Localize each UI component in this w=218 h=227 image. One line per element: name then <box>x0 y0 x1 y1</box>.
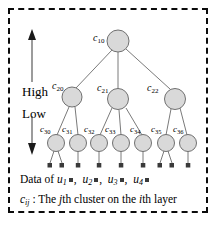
leaf-stems <box>50 151 188 163</box>
leaf-dot <box>141 163 146 168</box>
node-label-c33: c33 <box>105 125 116 134</box>
node-label-c32: c32 <box>84 125 95 134</box>
stem-c35-a <box>160 151 164 163</box>
leaf-dot <box>97 163 102 168</box>
edge-c21-c33 <box>119 110 121 135</box>
caption-data-of: Data of u1, u2, u3, u4 <box>20 173 150 186</box>
axis-label-high: High <box>22 84 48 100</box>
node-c33 <box>113 135 130 152</box>
up-arrow <box>28 29 36 82</box>
node-label-c21: c21 <box>97 83 108 93</box>
node-label-c20: c20 <box>52 81 63 91</box>
leaf-dot <box>158 163 163 168</box>
axis-label-low: Low <box>22 106 46 122</box>
figure-container: High Low c10 c20 c21 c22 c30 c31 c32 c33… <box>0 0 218 227</box>
leaf-dots <box>48 163 191 168</box>
leaf-dot <box>76 163 81 168</box>
node-c21 <box>108 89 129 110</box>
node-c10 <box>107 30 129 52</box>
node-label-c10: c10 <box>93 33 104 43</box>
caption-legend: cij : The jth cluster on the ith layer <box>20 193 177 206</box>
leaf-dot <box>119 163 124 168</box>
stem-c30-b <box>58 151 62 163</box>
node-c32 <box>91 135 108 152</box>
node-c30 <box>48 135 65 152</box>
node-c34 <box>135 135 152 152</box>
node-c22 <box>165 89 186 110</box>
leaf-dot <box>170 163 175 168</box>
user-dot <box>145 178 149 182</box>
node-label-c30: c30 <box>40 125 51 134</box>
node-c31 <box>70 135 87 152</box>
edge-c20-c31 <box>75 107 78 135</box>
user-dot <box>120 178 124 182</box>
node-label-c31: c31 <box>62 125 73 134</box>
edge-c22-c35 <box>166 109 171 135</box>
leaf-dot <box>48 163 53 168</box>
stem-c30-a <box>50 151 54 163</box>
node-c35 <box>158 135 175 152</box>
node-c36 <box>180 135 197 152</box>
node-label-c36: c36 <box>173 125 184 134</box>
user-dot <box>94 178 98 182</box>
node-label-c35: c35 <box>151 125 162 134</box>
stem-c35-b <box>168 151 172 163</box>
node-label-c22: c22 <box>147 83 158 93</box>
leaf-dot <box>186 163 191 168</box>
node-c20 <box>62 87 82 107</box>
node-label-c34: c34 <box>130 125 141 134</box>
leaf-dot <box>60 163 65 168</box>
user-dot <box>69 178 73 182</box>
